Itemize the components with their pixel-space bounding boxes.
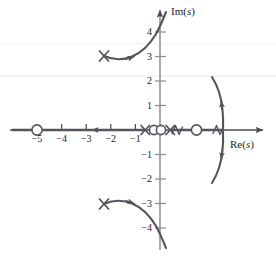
- arrow-arc-upper: [221, 101, 222, 110]
- x-tick-label--4: −4: [51, 133, 73, 144]
- y-axis-label: Im(s): [171, 5, 195, 17]
- y-axis-label-suffix: ): [191, 5, 195, 17]
- y-tick-label--3: −3: [128, 198, 152, 209]
- y-tick-label-1: 1: [132, 100, 152, 111]
- x-tick-label--2: −2: [100, 133, 122, 144]
- y-tick-label--1: −1: [128, 149, 152, 160]
- axis-break-2: [213, 126, 224, 135]
- x-tick-label--3: −3: [75, 133, 97, 144]
- y-tick-label--2: −2: [128, 173, 152, 184]
- zero-marker-re-0p04: [156, 125, 165, 134]
- pole-marker-lower-complex: [100, 199, 109, 209]
- y-tick-label--4: −4: [128, 222, 152, 233]
- y-tick-label-3: 3: [132, 51, 152, 62]
- root-locus-figure: Im(s) Re(s) −5 −4 −3 −2 −1 4 3 2 1 −1 −2…: [0, 0, 276, 259]
- arrow-arc-lower: [221, 150, 222, 159]
- x-tick-label--1: −1: [124, 133, 146, 144]
- x-axis-label-suffix: ): [250, 138, 254, 150]
- plot-canvas: [0, 0, 276, 259]
- x-axis-label-prefix: Re(: [230, 138, 246, 150]
- x-axis-label: Re(s): [230, 138, 254, 150]
- pole-marker-upper-complex: [100, 51, 109, 61]
- y-tick-label-4: 4: [132, 26, 152, 37]
- zero-marker-re-0p88: [191, 125, 201, 135]
- y-tick-label-2: 2: [132, 75, 152, 86]
- y-axis-label-prefix: Im(: [171, 5, 187, 17]
- x-tick-label--5: −5: [26, 133, 48, 144]
